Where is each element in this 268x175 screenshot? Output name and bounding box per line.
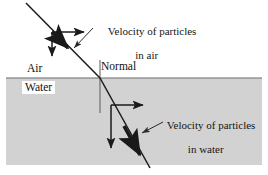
- refraction-diagram: Velocity of particles in air Velocity of…: [0, 0, 268, 175]
- velocity-in-water-annotation: Velocity of particles in water: [156, 108, 255, 175]
- velocity-in-water-line2: in water: [156, 144, 255, 156]
- air-medium-label: Air: [27, 62, 42, 74]
- air-velocity-vector: [52, 32, 68, 48]
- velocity-in-water-line1: Velocity of particles: [167, 119, 256, 131]
- normal-label: Normal: [101, 60, 136, 72]
- velocity-in-air-line1: Velocity of particles: [108, 25, 197, 37]
- air-label-leader-line: [74, 28, 93, 48]
- water-medium-label: Water: [22, 81, 55, 94]
- velocity-in-air-annotation: Velocity of particles in air: [97, 14, 196, 85]
